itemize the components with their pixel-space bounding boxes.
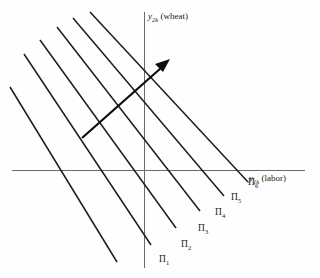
axes-group bbox=[12, 12, 305, 268]
pi-1-symbol: Π bbox=[159, 254, 166, 264]
isoprofit-line-pi-6 bbox=[90, 12, 248, 182]
figure-canvas bbox=[0, 0, 320, 278]
pi-4-subscript: 4 bbox=[222, 212, 225, 219]
pi-3-subscript: 3 bbox=[205, 228, 208, 235]
pi-6-subscript: 6 bbox=[255, 182, 258, 189]
x-axis-paren: (labor) bbox=[259, 173, 286, 183]
isoprofit-line-pi-2 bbox=[24, 54, 151, 245]
pi-6-symbol: Π bbox=[248, 177, 255, 187]
isoprofit-line-pi-4 bbox=[57, 27, 200, 211]
isoprofit-line-pi-3 bbox=[40, 40, 176, 228]
isoprofit-label-pi-6: Π6 bbox=[248, 178, 258, 189]
isoprofit-label-pi-1: Π1 bbox=[159, 255, 169, 266]
vector-shaft bbox=[82, 68, 161, 138]
profit-direction-vector bbox=[82, 59, 170, 138]
isoprofit-lines-group bbox=[10, 12, 248, 262]
isoprofit-line-pi-5 bbox=[73, 18, 224, 196]
pi-5-subscript: 5 bbox=[238, 197, 241, 204]
pi-2-subscript: 2 bbox=[188, 244, 191, 251]
pi-4-symbol: Π bbox=[215, 207, 222, 217]
isoprofit-label-pi-5: Π5 bbox=[231, 193, 241, 204]
y-axis-label: y2k (wheat) bbox=[148, 12, 188, 23]
isoprofit-figure: y2k (wheat) y1k (labor) Π1 Π2 Π3 Π4 Π5 Π… bbox=[0, 0, 320, 278]
pi-2-symbol: Π bbox=[181, 239, 188, 249]
pi-1-subscript: 1 bbox=[166, 259, 169, 266]
pi-5-symbol: Π bbox=[231, 192, 238, 202]
y-axis-paren: (wheat) bbox=[158, 11, 188, 21]
pi-3-symbol: Π bbox=[198, 223, 205, 233]
isoprofit-label-pi-3: Π3 bbox=[198, 224, 208, 235]
isoprofit-label-pi-2: Π2 bbox=[181, 240, 191, 251]
isoprofit-label-pi-4: Π4 bbox=[215, 208, 225, 219]
